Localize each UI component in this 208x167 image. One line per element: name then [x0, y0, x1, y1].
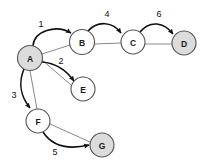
- node-label-b: B: [79, 38, 85, 48]
- node-label-a: A: [27, 54, 33, 64]
- graph-node-e[interactable]: E: [71, 77, 95, 101]
- graph-edge-a-b: [42, 45, 70, 54]
- graph-edge-b-c: [94, 43, 121, 44]
- graph-node-b[interactable]: B: [70, 30, 95, 55]
- edge-weight-b-c: 4: [104, 9, 109, 19]
- node-layer: ABCDEFG: [18, 30, 197, 158]
- edge-weight-f-g: 5: [52, 147, 57, 157]
- node-label-d: D: [181, 39, 187, 49]
- node-label-e: E: [80, 85, 86, 95]
- node-label-f: F: [35, 117, 40, 127]
- traversal-edge-c-d: [140, 24, 173, 34]
- edge-weight-a-b: 1: [38, 19, 43, 29]
- node-label-c: C: [130, 38, 136, 48]
- edge-weight-c-d: 6: [156, 9, 161, 19]
- graph-node-d[interactable]: D: [172, 31, 196, 55]
- graph-diagram-canvas: ABCDEFG 123456: [0, 0, 208, 167]
- graph-node-c[interactable]: C: [121, 30, 145, 54]
- traversal-edge-a-b: [33, 29, 71, 46]
- graph-edge-a-f: [30, 71, 37, 109]
- traversal-edge-f-g: [43, 132, 89, 147]
- graph-node-a[interactable]: A: [18, 46, 43, 71]
- edge-weight-a-f: 3: [11, 90, 16, 100]
- traversal-edge-a-f: [21, 69, 30, 108]
- node-label-g: G: [99, 141, 106, 151]
- graph-node-g[interactable]: G: [90, 133, 114, 157]
- traversal-edge-b-c: [88, 24, 121, 33]
- graph-svg: ABCDEFG 123456: [0, 0, 208, 167]
- plain-edge-layer: [30, 43, 172, 142]
- edge-weight-a-e: 2: [58, 56, 63, 66]
- graph-edge-f-g: [50, 124, 90, 142]
- graph-node-f[interactable]: F: [26, 109, 50, 133]
